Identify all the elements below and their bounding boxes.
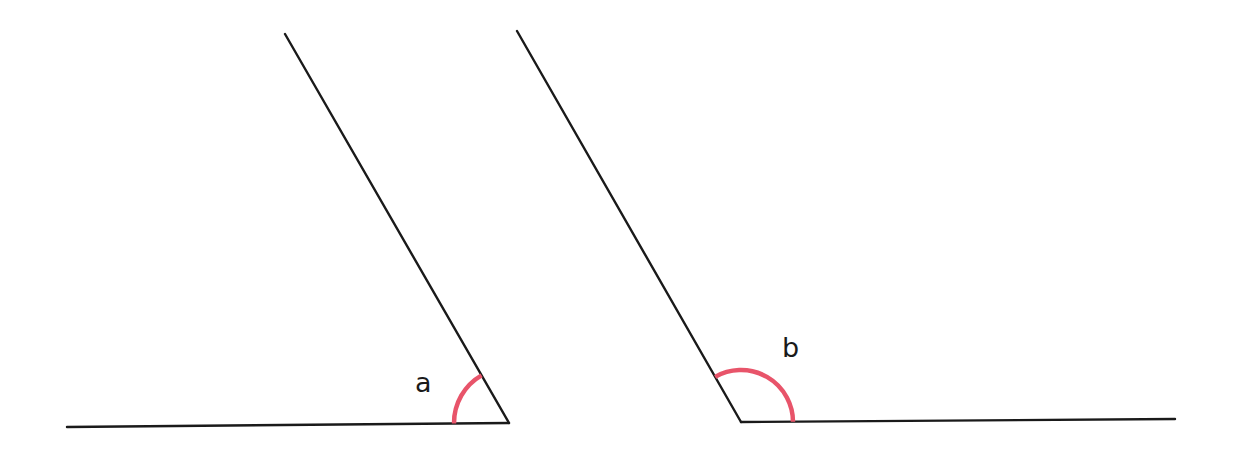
angle-b-horizontal-ray [741,419,1175,422]
angle-a-arc [454,375,482,423]
angle-a-slanted-ray [285,34,509,423]
angle-b-slanted-ray [517,31,741,422]
angle-b-label: b [782,332,799,363]
angle-a-label: a [415,367,432,398]
angle-a-horizontal-ray [67,423,509,427]
angle-b-group: b [517,31,1175,422]
angle-a-group: a [67,34,509,427]
angle-diagram: a b [0,0,1240,454]
